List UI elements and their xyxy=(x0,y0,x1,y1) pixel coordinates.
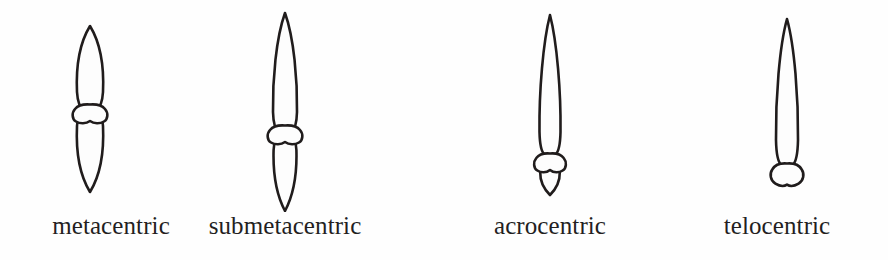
acrocentric-illustration xyxy=(439,0,661,212)
submetacentric-label: submetacentric xyxy=(174,210,396,242)
metacentric-upper-arm xyxy=(77,26,103,113)
submetacentric-centromere xyxy=(268,125,303,144)
acrocentric-upper-arm xyxy=(539,15,560,156)
submetacentric-upper-arm xyxy=(273,13,297,134)
chromosome-types-diagram: metacentric submetacentric xyxy=(0,0,888,260)
chromosome-acrocentric: acrocentric xyxy=(439,0,661,260)
telocentric-centromere xyxy=(771,163,804,185)
acrocentric-centromere xyxy=(534,153,566,172)
acrocentric-label: acrocentric xyxy=(439,210,661,242)
metacentric-centromere xyxy=(73,104,108,123)
submetacentric-illustration xyxy=(174,0,396,212)
chromosome-submetacentric: submetacentric xyxy=(174,0,396,260)
chromosome-telocentric: telocentric xyxy=(666,0,888,260)
telocentric-label: telocentric xyxy=(666,210,888,242)
telocentric-illustration xyxy=(666,0,888,212)
telocentric-upper-arm xyxy=(776,19,798,167)
